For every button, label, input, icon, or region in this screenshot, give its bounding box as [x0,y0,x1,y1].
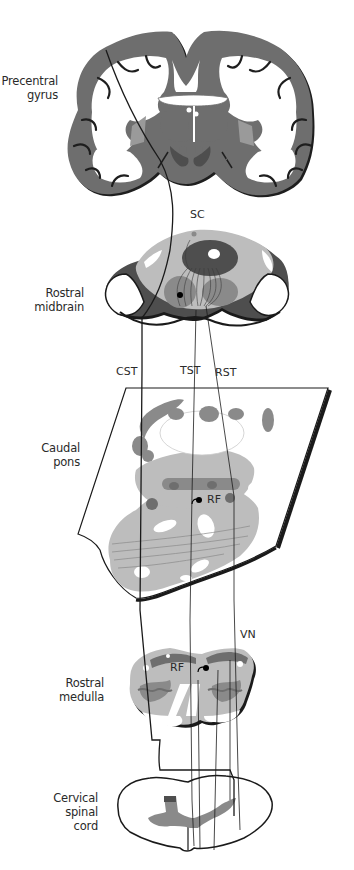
label-line: pons [0,455,80,469]
tag-tst: TST [180,364,200,377]
cervical-spinal-cord-section [118,775,272,851]
label-line: Precentral [0,74,58,88]
label-line: medulla [0,690,104,704]
tag-cst: CST [116,365,137,378]
label-rostral-medulla: Rostral medulla [0,676,104,704]
tag-rf-medulla: RF [170,661,184,674]
tag-rf-pons: RF [207,493,221,506]
label-line: Rostral [0,286,84,300]
label-precentral-gyrus: Precentral gyrus [0,74,58,102]
label-line: Rostral [0,676,104,690]
label-line: cord [0,819,98,833]
tag-rst: RST [215,366,236,379]
label-line: gyrus [0,88,58,102]
label-cervical-spinal-cord: Cervical spinal cord [0,791,98,833]
tag-vn: VN [240,628,256,641]
label-line: Cervical [0,791,98,805]
label-line: Caudal [0,441,80,455]
label-line: spinal [0,805,98,819]
caudal-pons-section [78,388,330,600]
label-caudal-pons: Caudal pons [0,441,80,469]
coronal-brain-section [68,31,315,197]
motor-pathway-diagram [0,0,354,870]
label-rostral-midbrain: Rostral midbrain [0,286,84,314]
rostral-midbrain-section [106,230,289,326]
label-line: midbrain [0,300,84,314]
tag-sc: SC [190,208,205,221]
